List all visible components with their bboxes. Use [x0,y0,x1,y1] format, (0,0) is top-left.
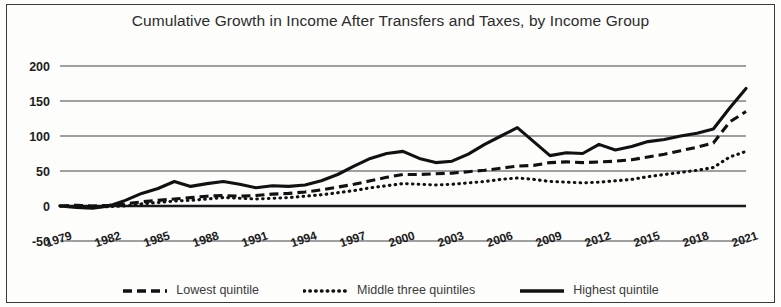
chart-plot-area: 200150100500-50 197919821985198819911994… [0,0,781,307]
x-tick-label: 2003 [436,228,466,250]
x-tick-label: 2018 [681,228,711,250]
y-tick-label: 150 [29,95,50,109]
legend-label: Middle three quintiles [357,283,475,297]
x-tick-label: 1991 [240,228,270,250]
legend-label: Lowest quintile [176,283,259,297]
x-tick-label: 1979 [44,228,74,250]
legend-item[interactable]: Middle three quintiles [303,283,475,297]
gridlines [60,66,746,241]
y-tick-label: 50 [36,165,50,179]
x-tick-label: 1997 [338,228,368,250]
y-tick-label: 0 [43,200,50,214]
x-tick-label: 1988 [191,228,221,250]
x-tick-label: 1994 [289,228,319,250]
x-tick-label: 2009 [534,228,564,250]
x-tick-label: 1982 [93,228,123,250]
x-tick-label: 2021 [730,228,760,250]
series-line-dashed [60,112,746,207]
series-line-solid [60,88,746,208]
legend-swatch-dotted [303,288,349,292]
legend-label: Highest quintile [573,283,658,297]
legend-item[interactable]: Lowest quintile [122,283,259,297]
x-tick-label: 2000 [387,228,417,250]
legend-swatch-dashed [122,288,168,292]
x-axis-tick-labels: 1979198219851988199119941997200020032006… [44,228,760,250]
x-tick-label: 2015 [632,228,662,250]
legend-swatch-solid [519,288,565,292]
chart-legend: Lowest quintileMiddle three quintilesHig… [0,283,781,297]
x-tick-label: 1985 [142,228,172,250]
y-tick-label: 100 [29,130,50,144]
series-line-dotted [60,151,746,206]
legend-item[interactable]: Highest quintile [519,283,658,297]
y-axis-tick-labels: 200150100500-50 [29,60,50,249]
x-tick-label: 2006 [485,228,515,250]
data-series [60,88,746,208]
chart-figure: Cumulative Growth in Income After Transf… [0,0,781,307]
y-tick-label: 200 [29,60,50,74]
x-tick-label: 2012 [583,228,613,250]
